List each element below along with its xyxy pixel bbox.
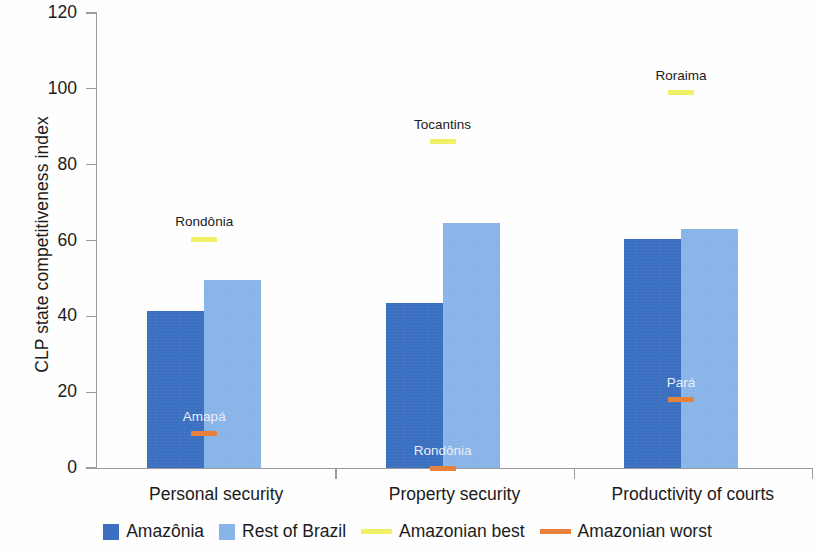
- marker-worst-par-: [668, 397, 694, 402]
- y-axis-tick-label: 100: [19, 78, 77, 99]
- legend-swatch-line-icon: [361, 529, 392, 534]
- marker-label-rond-nia: Rondônia: [373, 443, 513, 458]
- marker-worst-rond-nia: [430, 466, 456, 471]
- legend-item-amazonian-worst[interactable]: Amazonian worst: [540, 521, 712, 542]
- legend-item-rest-of-brazil[interactable]: Rest of Brazil: [219, 521, 346, 542]
- legend-label: Amazônia: [126, 521, 204, 542]
- y-axis-tick-label: 20: [19, 381, 77, 402]
- y-axis-tick-label: 60: [19, 230, 77, 251]
- y-axis-tick: [86, 88, 97, 89]
- chart-legend: AmazôniaRest of BrazilAmazonian bestAmaz…: [0, 521, 815, 542]
- bar-rest-of-brazil-property-security: [443, 223, 500, 468]
- y-axis-tick-label: 40: [19, 305, 77, 326]
- x-axis-group-tick: [812, 468, 813, 479]
- marker-label-amap-: Amapá: [134, 409, 274, 424]
- bar-rest-of-brazil-personal-security: [204, 280, 261, 468]
- bar-rest-of-brazil-productivity-of-courts: [681, 229, 738, 468]
- legend-item-amaz-nia[interactable]: Amazônia: [103, 521, 204, 542]
- marker-worst-amap-: [191, 431, 217, 436]
- legend-swatch-line-icon: [540, 529, 571, 534]
- legend-item-amazonian-best[interactable]: Amazonian best: [361, 521, 525, 542]
- bar-chart: CLP state competitiveness index 02040608…: [0, 0, 815, 554]
- y-axis-tick-label: 0: [19, 457, 77, 478]
- x-axis-group-tick: [335, 468, 336, 479]
- y-axis-tick: [86, 467, 97, 468]
- y-axis-tick: [86, 164, 97, 165]
- legend-swatch-box-icon: [103, 524, 119, 540]
- marker-best-roraima: [668, 90, 694, 95]
- legend-label: Rest of Brazil: [242, 521, 346, 542]
- x-axis-group-tick: [574, 468, 575, 479]
- marker-label-rond-nia: Rondônia: [134, 214, 274, 229]
- bar-amaz-nia-productivity-of-courts: [624, 239, 681, 468]
- legend-swatch-box-icon: [219, 524, 235, 540]
- legend-label: Amazonian worst: [578, 521, 712, 542]
- bar-amaz-nia-personal-security: [147, 311, 204, 468]
- y-axis-tick: [86, 240, 97, 241]
- x-axis-label-personal-security: Personal security: [97, 484, 335, 505]
- marker-best-rond-nia: [191, 237, 217, 242]
- marker-best-tocantins: [430, 139, 456, 144]
- y-axis-tick: [86, 392, 97, 393]
- legend-label: Amazonian best: [399, 521, 525, 542]
- y-axis-tick-label: 120: [19, 2, 77, 23]
- marker-label-tocantins: Tocantins: [373, 117, 513, 132]
- x-axis-label-productivity-of-courts: Productivity of courts: [574, 484, 812, 505]
- plot-area: 020406080100120RondôniaTocantinsRoraimaA…: [97, 13, 812, 468]
- y-axis-tick: [86, 12, 97, 13]
- marker-label-par-: Pará: [611, 375, 751, 390]
- y-axis-tick-label: 80: [19, 154, 77, 175]
- x-axis-label-property-security: Property security: [335, 484, 573, 505]
- y-axis-tick: [86, 316, 97, 317]
- marker-label-roraima: Roraima: [611, 68, 751, 83]
